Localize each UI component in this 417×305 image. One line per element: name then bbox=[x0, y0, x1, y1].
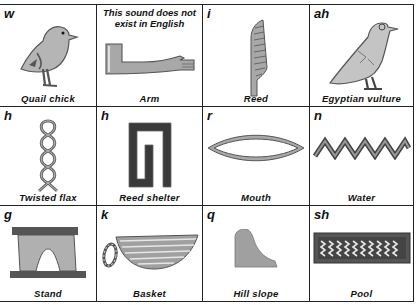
water-icon bbox=[310, 119, 413, 177]
basket-icon bbox=[97, 218, 202, 287]
glyph-label: Twisted flax bbox=[0, 192, 96, 203]
cell-hill-slope: q Hill slope bbox=[203, 206, 310, 301]
cell-twisted-flax: h Twisted flax bbox=[0, 107, 97, 206]
cell-reed: i Reed bbox=[203, 5, 310, 107]
pool-icon bbox=[310, 218, 413, 277]
glyph-label: Mouth bbox=[203, 192, 309, 203]
stand-icon bbox=[0, 218, 96, 287]
cell-egyptian-vulture: ah Egyptian vulture bbox=[310, 5, 413, 107]
reed-shelter-icon bbox=[97, 119, 202, 191]
cell-basket: k Basket bbox=[97, 206, 203, 301]
hieroglyph-table: w Quail chick This sound does not exist … bbox=[0, 4, 414, 302]
glyph-label: Arm bbox=[97, 93, 202, 104]
glyph-label: Stand bbox=[0, 288, 96, 299]
glyph-label: Hill slope bbox=[203, 288, 309, 299]
cell-arm: This sound does not exist in English Arm bbox=[97, 5, 203, 107]
hill-slope-icon bbox=[203, 218, 309, 279]
quail-chick-icon bbox=[0, 17, 96, 92]
mouth-icon bbox=[203, 119, 309, 177]
glyph-label: Reed bbox=[203, 93, 309, 104]
twisted-flax-icon bbox=[0, 119, 96, 191]
glyph-label: Quail chick bbox=[0, 93, 96, 104]
arm-icon bbox=[97, 27, 202, 92]
glyph-label: Egyptian vulture bbox=[310, 93, 413, 104]
sound-note: This sound does not exist in English bbox=[97, 7, 202, 29]
glyph-label: Basket bbox=[97, 288, 202, 299]
reed-icon bbox=[203, 17, 309, 98]
cell-quail-chick: w Quail chick bbox=[0, 5, 97, 107]
glyph-label: Pool bbox=[310, 288, 413, 299]
cell-stand: g Stand bbox=[0, 206, 97, 301]
cell-water: n Water bbox=[310, 107, 413, 206]
glyph-label: Reed shelter bbox=[97, 192, 202, 203]
cell-reed-shelter: h Reed shelter bbox=[97, 107, 203, 206]
cell-mouth: r Mouth bbox=[203, 107, 310, 206]
egyptian-vulture-icon bbox=[310, 17, 413, 92]
cell-pool: sh Pool bbox=[310, 206, 413, 301]
glyph-label: Water bbox=[310, 192, 413, 203]
